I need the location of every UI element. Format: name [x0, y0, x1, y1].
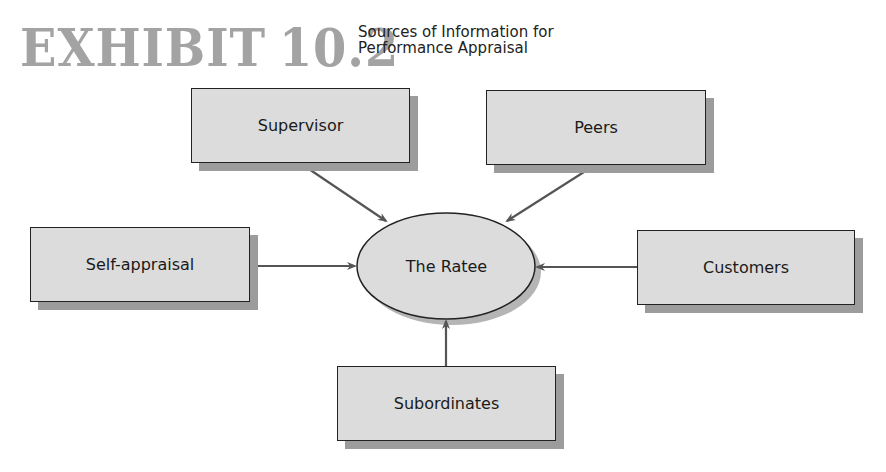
node-supervisor: Supervisor [191, 88, 410, 163]
node-customers: Customers [637, 230, 855, 305]
node-self-appraisal-label: Self-appraisal [86, 255, 195, 274]
node-self-appraisal: Self-appraisal [30, 227, 250, 302]
node-peers: Peers [486, 90, 706, 165]
node-subordinates: Subordinates [337, 366, 556, 441]
node-supervisor-label: Supervisor [258, 116, 344, 135]
ratee-label: The Ratee [406, 257, 487, 276]
ratee-label-container: The Ratee [357, 213, 536, 320]
node-peers-label: Peers [574, 118, 618, 137]
node-customers-label: Customers [703, 258, 789, 277]
node-subordinates-label: Subordinates [394, 394, 500, 413]
